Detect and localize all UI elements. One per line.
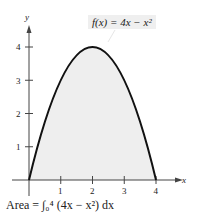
y-tick-1: 1 — [16, 142, 21, 152]
y-tick-4: 4 — [16, 42, 21, 52]
x-tick-4: 4 — [154, 186, 159, 196]
x-tick-3: 3 — [122, 186, 127, 196]
x-tick-1: 1 — [58, 186, 63, 196]
x-axis-label: x — [181, 175, 186, 185]
y-axis-arrow-icon — [27, 25, 32, 33]
y-tick-2: 2 — [16, 109, 21, 119]
area-caption: Area = ∫₀⁴ (4x − x²) dx — [6, 198, 114, 213]
chart: 1 2 3 4 1 2 3 4 x y — [0, 0, 197, 217]
y-axis-label: y — [24, 12, 29, 22]
function-label: f(x) = 4x − x² — [88, 15, 156, 29]
x-tick-2: 2 — [90, 186, 95, 196]
y-tick-3: 3 — [16, 76, 21, 86]
